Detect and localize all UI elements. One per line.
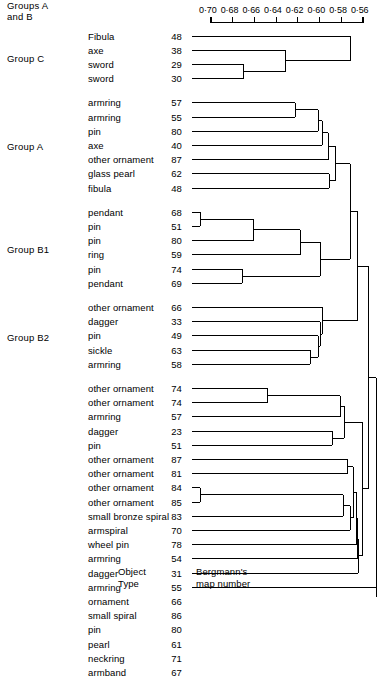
leaf-map-number: 80 — [160, 624, 182, 635]
leaf-map-number: 86 — [160, 610, 182, 621]
leaf-type-label: armband — [88, 667, 126, 678]
leaf-type-label: small spiral — [88, 610, 137, 621]
leaf-map-number: 61 — [160, 639, 182, 650]
leaf-type-label: neckring — [88, 653, 125, 664]
leaf-type-label: pin — [88, 624, 101, 635]
leaf-map-number: 66 — [160, 596, 182, 607]
leaf-map-number: 67 — [160, 667, 182, 678]
leaf-type-label: ornament — [88, 596, 129, 607]
leaf-type-label: pearl — [88, 639, 110, 650]
leaf-map-number: 71 — [160, 653, 182, 664]
